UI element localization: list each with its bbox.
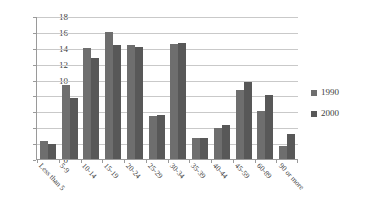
legend-label: 1990 xyxy=(321,88,339,97)
x-axis-label: 25-29 xyxy=(146,162,164,180)
bar-1990-less-than-5 xyxy=(40,141,48,159)
bar-group xyxy=(124,17,146,159)
bar-1990-5-9 xyxy=(62,85,70,159)
bar-group xyxy=(189,17,211,159)
bar-group xyxy=(211,17,233,159)
x-axis-label: 40-44 xyxy=(211,162,229,180)
bar-1990-25-29 xyxy=(149,116,157,159)
x-axis-label: 45-59 xyxy=(233,162,251,180)
bar-2000-90-or-more xyxy=(287,134,295,159)
bar-1990-35-39 xyxy=(192,138,200,159)
x-axis-label: 30-34 xyxy=(168,162,186,180)
bar-1990-20-24 xyxy=(127,45,135,159)
bar-1990-30-34 xyxy=(170,44,178,159)
legend-item[interactable]: 1990 xyxy=(311,88,369,97)
bar-group xyxy=(146,17,168,159)
x-axis-label: 35-39 xyxy=(190,162,208,180)
bar-group xyxy=(276,17,298,159)
bar-group xyxy=(233,17,255,159)
bar-2000-40-44 xyxy=(222,125,230,159)
bar-1990-45-59 xyxy=(236,90,244,159)
legend-label: 2000 xyxy=(321,109,339,118)
bar-group xyxy=(37,17,59,159)
plot-area xyxy=(36,17,298,160)
bar-group xyxy=(255,17,277,159)
bar-2000-25-29 xyxy=(157,115,165,159)
bar-2000-less-than-5 xyxy=(48,144,56,159)
x-axis-label: 5-9 xyxy=(59,162,72,175)
bar-2000-30-34 xyxy=(178,43,186,159)
x-axis-label: 20-24 xyxy=(124,162,142,180)
bar-group xyxy=(81,17,103,159)
bar-1990-60-89 xyxy=(257,111,265,159)
x-axis-label: 90 or more xyxy=(277,162,305,192)
bar-chart: 024681012141618 Less than 55-910-1415-19… xyxy=(0,0,370,222)
bar-2000-45-59 xyxy=(244,82,252,159)
bar-1990-90-or-more xyxy=(279,146,287,159)
legend-item[interactable]: 2000 xyxy=(311,109,369,118)
bar-2000-15-19 xyxy=(113,45,121,159)
bar-2000-20-24 xyxy=(135,47,143,159)
bar-1990-10-14 xyxy=(83,48,91,159)
bar-2000-35-39 xyxy=(200,138,208,159)
legend-swatch-icon xyxy=(311,90,317,96)
bars-layer xyxy=(37,17,298,159)
bar-1990-15-19 xyxy=(105,32,113,159)
chart-legend: 19902000 xyxy=(311,88,369,130)
bar-group xyxy=(168,17,190,159)
x-axis-labels: Less than 55-910-1415-1920-2425-2930-343… xyxy=(36,162,298,220)
bar-2000-5-9 xyxy=(70,98,78,159)
x-axis-label: 15-19 xyxy=(102,162,120,180)
y-axis-tick-mark xyxy=(33,160,36,161)
bar-group xyxy=(59,17,81,159)
bar-1990-40-44 xyxy=(214,128,222,159)
bar-2000-60-89 xyxy=(265,95,273,159)
bar-group xyxy=(102,17,124,159)
bar-2000-10-14 xyxy=(91,58,99,159)
legend-swatch-icon xyxy=(311,111,317,117)
x-axis-label: 60-89 xyxy=(255,162,273,180)
x-axis-label: 10-14 xyxy=(80,162,98,180)
